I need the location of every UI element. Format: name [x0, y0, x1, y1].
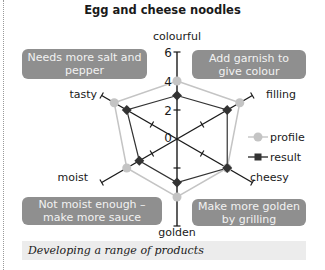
result-marker [134, 156, 144, 166]
legend-label-result: result [270, 151, 302, 164]
legend-result-marker [255, 154, 262, 161]
note-tasty: Needs more salt and pepper [22, 49, 147, 79]
legend-label-profile: profile [270, 131, 305, 144]
note-moist: Not moist enough – make more sauce [22, 197, 162, 225]
axis-label-golden: golden [158, 226, 196, 239]
axis-label-colourful: colourful [153, 30, 201, 43]
result-marker [172, 178, 182, 188]
tick-label: 6 [164, 46, 172, 60]
tick-label: 4 [164, 75, 172, 89]
note-golden: Make more golden by grilling [192, 199, 306, 226]
profile-marker [173, 193, 182, 202]
result-marker [122, 105, 132, 115]
tick-label: 2 [164, 104, 172, 118]
radar-chart: 0246colourfulfillingcheesygoldenmoisttas… [0, 0, 325, 270]
note-colour: Add garnish to give colour [192, 50, 306, 79]
axis-label-cheesy: cheesy [250, 171, 289, 184]
profile-marker [122, 164, 131, 173]
axis-label-moist: moist [57, 171, 88, 184]
result-marker [222, 163, 232, 173]
legend-profile-marker [254, 133, 263, 142]
profile-marker [235, 98, 244, 107]
axis-label-tasty: tasty [69, 88, 97, 101]
result-marker [172, 91, 182, 101]
tick-label: 0 [164, 131, 172, 145]
caption-banner: Developing a range of products [22, 241, 306, 260]
profile-marker [110, 98, 119, 107]
profile-marker [173, 77, 182, 86]
axis-label-filling: filling [266, 88, 296, 101]
result-marker [222, 105, 232, 115]
